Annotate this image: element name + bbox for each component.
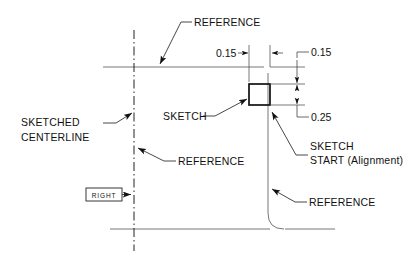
annotation-reference-bottom: REFERENCE [309,196,376,208]
annotation-reference-middle: REFERENCE [178,155,245,167]
right-view-tag-label: RIGHT [92,192,117,199]
leader-reference-bottom [272,189,295,202]
dim-label-horizontal-0-15: 0.15 [216,47,237,59]
annotation-sketch-start-line1: SKETCH [310,140,354,152]
leader-sketch [215,99,247,116]
leader-reference-top [160,22,181,64]
dim-leader-vertical-top [297,52,309,58]
leader-reference-middle [138,148,164,161]
dim-leader-vertical-bottom [297,105,309,117]
leader-sketched-centerline [116,113,132,123]
annotation-sketched-centerline-line1: SKETCHED [21,116,80,128]
annotation-sketch: SKETCH [163,110,207,122]
drawing-svg: 0.15 0.15 0.25 REFERENCE SKETCHED CENTER… [0,0,412,259]
leader-sketch-start [272,112,296,155]
annotation-sketch-start-line2: START (Alignment) [310,154,403,166]
sketch-rectangle [249,84,270,105]
technical-drawing-canvas: 0.15 0.15 0.25 REFERENCE SKETCHED CENTER… [0,0,412,259]
annotation-sketched-centerline-line2: CENTERLINE [21,131,90,143]
dim-label-vertical-0-25: 0.25 [311,111,332,123]
annotation-reference-top: REFERENCE [194,16,261,28]
dim-label-vertical-0-15: 0.15 [311,46,332,58]
